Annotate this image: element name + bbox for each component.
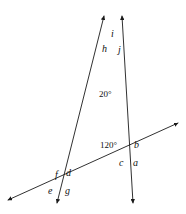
angle-label-e: e (48, 186, 52, 196)
geometry-figure: a b c d e f g h i j 20° 120° (0, 0, 186, 214)
angle-measure-120-degrees: 120° (100, 141, 117, 150)
angle-label-j: j (118, 45, 121, 55)
angle-label-b: b (134, 140, 139, 150)
geometry-diagram-canvas (0, 0, 186, 214)
angle-label-a: a (133, 158, 138, 168)
diagram-lines (8, 16, 178, 203)
angle-measure-20-degrees: 20° (99, 90, 112, 99)
angle-label-f: f (55, 170, 58, 180)
angle-label-g: g (65, 186, 70, 196)
angle-label-h: h (102, 44, 107, 54)
angle-label-c: c (119, 158, 123, 168)
angle-label-i: i (111, 29, 114, 39)
line-right-ray (122, 16, 133, 203)
line-transversal (8, 123, 178, 200)
angle-label-d: d (66, 168, 71, 178)
